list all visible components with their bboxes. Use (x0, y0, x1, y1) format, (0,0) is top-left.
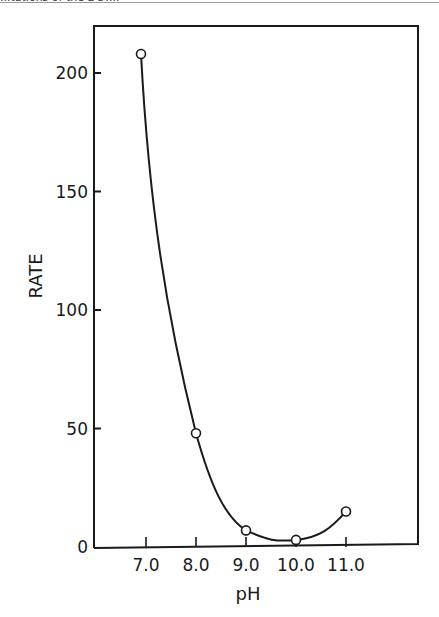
x-tick-label: 10.0 (277, 555, 315, 575)
y-tick-label: 50 (66, 419, 88, 439)
data-point-marker (242, 526, 251, 535)
y-tick-label: 0 (77, 537, 88, 557)
y-tick-label: 150 (56, 182, 88, 202)
data-point-marker (192, 429, 201, 438)
plot-frame (94, 26, 418, 548)
data-points (137, 50, 351, 545)
x-tick-label: 8.0 (182, 555, 209, 575)
x-tick-label: 9.0 (232, 555, 259, 575)
y-tick-label: 100 (56, 300, 88, 320)
y-tick-label: 200 (56, 63, 88, 83)
data-point-marker (342, 507, 351, 516)
x-tick-label: 7.0 (132, 555, 159, 575)
y-axis-title: RATE (25, 253, 46, 298)
x-axis-title: pH (236, 583, 261, 604)
rate-vs-ph-chart: 050100150200 7.08.09.010.011.0 pH RATE (0, 0, 439, 617)
data-curve (141, 54, 346, 541)
x-tick-label: 11.0 (327, 555, 365, 575)
data-point-marker (292, 535, 301, 544)
data-point-marker (137, 50, 146, 59)
x-axis-ticks: 7.08.09.010.011.0 (132, 537, 364, 575)
